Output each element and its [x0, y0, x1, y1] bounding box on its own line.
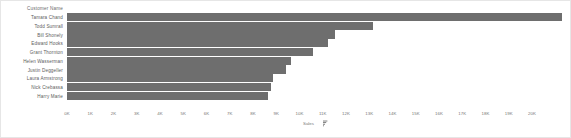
bar-track — [67, 83, 564, 91]
bar-row[interactable]: Laura Armstrong — [1, 74, 571, 82]
bar[interactable] — [67, 83, 271, 91]
x-axis: 0K1K2K3K4K5K6K7K8K9K10K11K12K13K14K15K16… — [67, 111, 532, 123]
x-axis-tick: 7K — [227, 111, 232, 116]
bar-row[interactable]: Nick Crebassa — [1, 83, 571, 91]
bar[interactable] — [67, 74, 273, 82]
x-axis-tick: 6K — [204, 111, 209, 116]
bar-category-label: Grant Thornton — [1, 50, 63, 55]
bar-category-label: Todd Sumrall — [1, 23, 63, 28]
bar-category-label: Harry Marie — [1, 93, 63, 98]
x-axis-tick: 16K — [435, 111, 443, 116]
bar-category-label: Edward Hooks — [1, 41, 63, 46]
x-axis-tick: 12K — [342, 111, 350, 116]
x-axis-tick: 1K — [88, 111, 93, 116]
x-axis-tick: 18K — [482, 111, 490, 116]
bar-category-label: Nick Crebassa — [1, 84, 63, 89]
bar-track — [67, 39, 564, 47]
bar-row[interactable]: Bill Shonely — [1, 30, 571, 38]
bar[interactable] — [67, 39, 328, 47]
x-axis-tick: 9K — [274, 111, 279, 116]
x-axis-tick: 10K — [296, 111, 304, 116]
bar-track — [67, 13, 564, 21]
x-axis-tick: 8K — [250, 111, 255, 116]
bar-category-label: Helen Wasserman — [1, 58, 63, 63]
bar-row[interactable]: Grant Thornton — [1, 48, 571, 56]
x-axis-tick: 2K — [111, 111, 116, 116]
bar-row[interactable]: Edward Hooks — [1, 39, 571, 47]
x-axis-tick: 14K — [389, 111, 397, 116]
bar-row[interactable]: Tamara Chand — [1, 13, 571, 21]
bar-track — [67, 30, 564, 38]
bar-track — [67, 74, 564, 82]
x-axis-tick: 5K — [181, 111, 186, 116]
x-axis-tick: 0K — [64, 111, 69, 116]
chart-card: Customer Name Tamara ChandTodd SumrallBi… — [0, 0, 571, 138]
column-header-customer-name: Customer Name — [27, 6, 63, 11]
x-axis-tick: 3K — [134, 111, 139, 116]
bar-category-label: Laura Armstrong — [1, 76, 63, 81]
bar-category-label: Bill Shonely — [1, 32, 63, 37]
bar-track — [67, 22, 564, 30]
bar-track — [67, 48, 564, 56]
bar-track — [67, 65, 564, 73]
x-axis-tick: 20K — [528, 111, 536, 116]
bar-row[interactable]: Helen Wasserman — [1, 57, 571, 65]
bar-track — [67, 57, 564, 65]
bar[interactable] — [67, 92, 268, 100]
bar[interactable] — [67, 13, 562, 21]
sort-descending-icon[interactable] — [323, 120, 329, 127]
x-axis-tick: 11K — [319, 111, 327, 116]
bar[interactable] — [67, 57, 291, 65]
x-axis-tick: 17K — [458, 111, 466, 116]
bar-row[interactable]: Todd Sumrall — [1, 22, 571, 30]
x-axis-tick: 4K — [157, 111, 162, 116]
bar-row[interactable]: Harry Marie — [1, 92, 571, 100]
x-axis-title: Sales — [303, 121, 314, 126]
bar-track — [67, 92, 564, 100]
bar-category-label: Justin Deggeller — [1, 67, 63, 72]
bar[interactable] — [67, 22, 373, 30]
x-axis-tick: 15K — [412, 111, 420, 116]
bar-row[interactable]: Justin Deggeller — [1, 65, 571, 73]
bar-category-label: Tamara Chand — [1, 15, 63, 20]
x-axis-tick: 19K — [505, 111, 513, 116]
bar[interactable] — [67, 48, 313, 56]
x-axis-tick: 13K — [365, 111, 373, 116]
bar-chart-plot-area: Tamara ChandTodd SumrallBill ShonelyEdwa… — [1, 13, 571, 109]
bar[interactable] — [67, 65, 286, 73]
bar[interactable] — [67, 30, 335, 38]
